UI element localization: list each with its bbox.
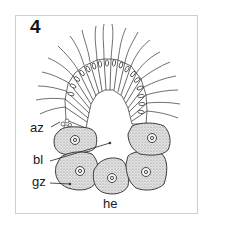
label-gz: gz — [32, 175, 46, 188]
label-he: he — [103, 197, 117, 210]
label-bl: bl — [33, 153, 43, 166]
label-az: az — [30, 121, 44, 134]
